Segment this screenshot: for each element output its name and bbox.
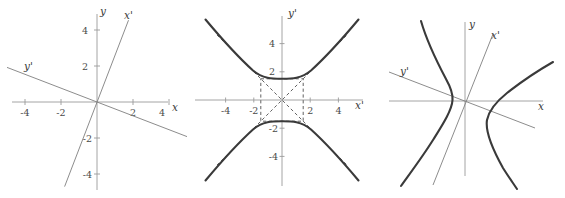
y-tick-label-4: 4 bbox=[269, 38, 275, 49]
x-tick-label-neg4: -4 bbox=[20, 107, 29, 118]
y-prime-axis-label: y' bbox=[23, 60, 33, 72]
x-prime-axis-label: x' bbox=[124, 9, 133, 21]
panel-hyperbola-rotated-frame: -4 -2 2 4 4 2 -2 -4 y' x' bbox=[185, 0, 375, 198]
y-axis-label: y bbox=[99, 5, 107, 17]
y-tick-label-4: 4 bbox=[82, 25, 88, 36]
x-tick-label-neg2: -2 bbox=[56, 107, 65, 118]
x-tick-label-neg4: -4 bbox=[221, 105, 230, 116]
x-prime-axis-label: x' bbox=[491, 29, 500, 41]
panel-3-plot: y x x' y' bbox=[375, 0, 565, 198]
y-prime-axis-label: y' bbox=[287, 7, 297, 19]
x-axis-label: x bbox=[538, 100, 544, 112]
y-tick-label-neg4: -4 bbox=[83, 169, 92, 180]
conic-sections-figure: -4 -2 2 4 4 2 -2 -4 y x x' y' bbox=[0, 0, 565, 198]
y-prime-axis-line bbox=[389, 72, 535, 128]
y-tick-label-2: 2 bbox=[82, 61, 88, 72]
x-tick-label-4: 4 bbox=[159, 107, 165, 118]
x-prime-axis-label: x' bbox=[355, 99, 364, 111]
y-prime-axis-label: y' bbox=[399, 65, 409, 77]
panel-rotated-hyperbola-original-frame: y x x' y' bbox=[375, 0, 565, 198]
x-tick-label-4: 4 bbox=[335, 105, 341, 116]
y-axis-label: y bbox=[468, 18, 476, 30]
panel-2-plot: -4 -2 2 4 4 2 -2 -4 y' x' bbox=[185, 0, 375, 198]
y-tick-label-neg4: -4 bbox=[269, 151, 278, 162]
x-axis-label: x bbox=[172, 101, 178, 113]
hyperbola-left-branch bbox=[401, 21, 453, 186]
x-tick-label-2: 2 bbox=[307, 105, 313, 116]
panel-degenerate-lines: -4 -2 2 4 4 2 -2 -4 y x x' y' bbox=[0, 0, 190, 198]
hyperbola-right-branch bbox=[487, 62, 553, 189]
x-prime-axis-line bbox=[433, 34, 493, 185]
y-tick-label-neg2: -2 bbox=[269, 123, 278, 134]
panel-1-plot: -4 -2 2 4 4 2 -2 -4 y x x' y' bbox=[0, 0, 190, 198]
y-tick-label-2: 2 bbox=[269, 66, 275, 77]
x-tick-label-neg2: -2 bbox=[249, 105, 258, 116]
